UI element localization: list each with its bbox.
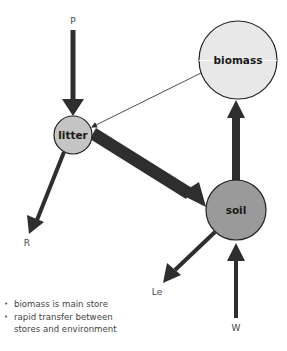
node-label-biomass: biomass <box>214 54 263 66</box>
flow-arrow-litter-to-soil <box>90 128 206 207</box>
node-biomass: biomass <box>199 21 277 99</box>
node-litter: litter <box>54 116 92 154</box>
flow-arrow-litter-to-r <box>27 152 64 234</box>
flow-arrow-p-to-litter <box>62 30 84 116</box>
note-item: rapid transfer between <box>4 311 117 324</box>
flow-arrow-biomass-to-litter <box>92 73 201 127</box>
note-item-continuation: stores and environment <box>4 323 117 336</box>
flow-arrow-soil-to-le <box>163 232 215 283</box>
label-le: Le <box>152 287 163 297</box>
label-p: P <box>70 16 76 26</box>
node-label-litter: litter <box>58 129 88 141</box>
flow-arrow-soil-to-biomass <box>227 100 245 181</box>
flow-arrow-w-to-soil <box>227 243 245 318</box>
label-w: W <box>232 323 241 333</box>
node-soil: soil <box>206 180 266 240</box>
notes-list: biomass is main store rapid transfer bet… <box>4 298 117 336</box>
note-item: biomass is main store <box>4 298 117 311</box>
label-r: R <box>24 238 30 248</box>
node-label-soil: soil <box>226 204 247 216</box>
